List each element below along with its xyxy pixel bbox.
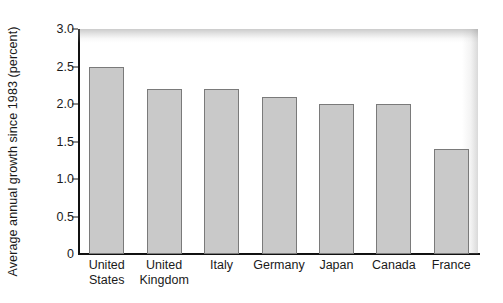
y-axis-title: Average annual growth since 1983 (percen… xyxy=(0,0,26,303)
x-axis-category-label: France xyxy=(423,258,480,273)
x-axis-category-label: Italy xyxy=(193,258,250,273)
bar xyxy=(147,89,182,254)
bar xyxy=(262,97,297,255)
bar xyxy=(434,149,469,254)
y-axis-tick-label: 2.0 xyxy=(30,98,74,111)
x-axis-category-label: Germany xyxy=(250,258,307,273)
y-axis-tick-label: 2.5 xyxy=(30,60,74,73)
x-axis-category-label-group: United StatesUnited KingdomItalyGermanyJ… xyxy=(78,258,480,300)
x-axis-category-label: Japan xyxy=(308,258,365,273)
y-axis-tick-mark xyxy=(72,179,78,180)
y-axis-tick-label: 1.0 xyxy=(30,173,74,186)
y-axis-tick-mark xyxy=(72,66,78,67)
x-axis-category-label: United Kingdom xyxy=(135,258,192,288)
bar-series-group xyxy=(78,29,480,254)
y-axis-tick-label: 0 xyxy=(30,248,74,261)
x-axis-category-label: Canada xyxy=(365,258,422,273)
bar xyxy=(204,89,239,254)
y-axis-tick-mark xyxy=(72,29,78,30)
bar-chart-figure: Average annual growth since 1983 (percen… xyxy=(0,0,503,303)
y-axis-tick-label: 1.5 xyxy=(30,135,74,148)
bar xyxy=(319,104,354,254)
y-axis-tick-mark xyxy=(72,141,78,142)
x-axis-category-label: United States xyxy=(78,258,135,288)
bar xyxy=(376,104,411,254)
y-axis-tick-mark xyxy=(72,216,78,217)
y-axis-tick-label: 3.0 xyxy=(30,23,74,36)
y-axis-tick-label-group: 00.51.01.52.02.53.0 xyxy=(30,0,74,303)
y-axis-tick-mark xyxy=(72,104,78,105)
y-axis-tick-label: 0.5 xyxy=(30,210,74,223)
bar xyxy=(89,67,124,255)
